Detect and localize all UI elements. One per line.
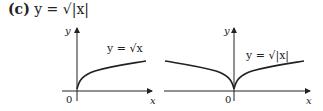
graph-sqrt-abs-x: [164, 28, 310, 101]
graph-sqrt-x: [62, 28, 152, 101]
curve-label: y = √x: [107, 42, 143, 55]
x-axis-label: x: [306, 95, 312, 106]
origin-label: 0: [66, 94, 72, 105]
y-axis-label: y: [65, 25, 71, 36]
x-axis-label: x: [150, 95, 156, 106]
curve-label: y = √|x|: [246, 49, 289, 62]
y-axis-label: y: [224, 25, 230, 36]
origin-label: 0: [225, 94, 231, 105]
